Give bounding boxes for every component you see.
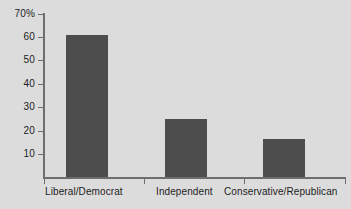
y-tick-label-30: 30 [0,102,35,112]
x-tick-mark [345,179,346,184]
bar-chart: 70% 60 50 40 30 20 10 Liberal/Democrat I… [0,0,351,209]
bar-independent [165,119,207,177]
y-tick-label-60: 60 [0,32,35,42]
x-tick-mark [44,179,45,184]
y-tick-label-20: 20 [0,126,35,136]
bar-conservative-republican [263,139,305,177]
x-axis-line [43,177,346,179]
y-axis-line [43,13,45,179]
y-tick-mark [38,154,43,155]
x-label-liberal-democrat: Liberal/Democrat [45,186,123,198]
y-tick-mark [38,107,43,108]
y-tick-label-50: 50 [0,55,35,65]
y-tick-label-70: 70% [0,9,35,19]
x-label-independent: Independent [156,186,213,198]
y-tick-label-40: 40 [0,79,35,89]
x-tick-mark [144,179,145,184]
y-tick-mark [38,84,43,85]
y-tick-label-10: 10 [0,149,35,159]
x-tick-mark [244,179,245,184]
bar-liberal-democrat [66,35,108,177]
y-tick-mark [38,60,43,61]
y-tick-mark [38,14,43,15]
x-label-conservative-republican: Conservative/Republican [224,186,337,198]
y-tick-mark [38,37,43,38]
y-tick-mark [38,131,43,132]
plot-area: 70% 60 50 40 30 20 10 Liberal/Democrat I… [0,0,351,209]
